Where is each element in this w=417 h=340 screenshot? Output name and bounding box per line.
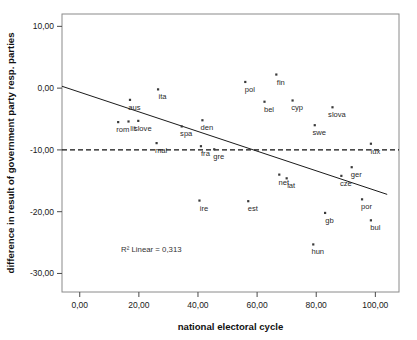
- scatter-plot-figure: 10,000,00-10,00-20,00-30,000,0020,0040,0…: [0, 0, 417, 340]
- data-point-label: gb: [325, 216, 333, 225]
- data-point-labels: ausitaromlitslovespadenmalfragrepolbelfi…: [116, 78, 381, 257]
- data-point-marker: [137, 120, 139, 122]
- data-point-marker: [351, 166, 353, 168]
- data-point-marker: [117, 121, 119, 123]
- data-point-label: lux: [371, 147, 381, 156]
- y-tick-label: -30,00: [30, 268, 54, 278]
- axis-ticks: 10,000,00-10,00-20,00-30,000,0020,0040,0…: [30, 21, 389, 310]
- data-point-marker: [340, 175, 342, 177]
- x-tick-label: 20,00: [128, 300, 150, 310]
- data-point-marker: [263, 101, 265, 103]
- data-point-marker: [324, 212, 326, 214]
- linear-regression-fit: [62, 86, 387, 194]
- data-point-label: slova: [328, 110, 347, 119]
- data-point-label: bul: [370, 223, 380, 232]
- regression-line: [62, 86, 387, 194]
- data-point-marker: [200, 145, 202, 147]
- data-point-label: cze: [340, 179, 352, 188]
- data-point-label: por: [361, 202, 372, 211]
- data-point-marker: [370, 219, 372, 221]
- y-tick-label: 10,00: [33, 21, 55, 31]
- x-axis-title: national electoral cycle: [178, 321, 284, 332]
- data-point-marker: [181, 125, 183, 127]
- data-point-marker: [213, 148, 215, 150]
- data-point-label: pol: [245, 85, 255, 94]
- data-point-label: lat: [287, 181, 296, 190]
- data-point-label: fra: [201, 149, 211, 158]
- data-point-marker: [201, 119, 203, 121]
- y-tick-label: -20,00: [30, 207, 54, 217]
- data-point-marker: [312, 243, 314, 245]
- data-point-label: hun: [311, 247, 324, 256]
- x-tick-label: 80,00: [306, 300, 328, 310]
- axis-titles: national electoral cycledifference in re…: [5, 33, 283, 332]
- data-point-label: cyp: [291, 103, 303, 112]
- data-point-marker: [314, 124, 316, 126]
- data-point-marker: [291, 99, 293, 101]
- y-axis-title: difference in result of government party…: [5, 33, 16, 274]
- data-point-label: swe: [312, 128, 326, 137]
- data-point-marker: [331, 106, 333, 108]
- y-tick-label: 0,00: [37, 83, 54, 93]
- data-point-label: spa: [180, 129, 193, 138]
- data-point-label: mal: [155, 146, 168, 155]
- data-point-marker: [155, 142, 157, 144]
- data-point-label: fin: [277, 78, 285, 87]
- data-point-label: ire: [200, 204, 208, 213]
- data-point-marker: [127, 120, 129, 122]
- data-point-label: ita: [159, 92, 168, 101]
- data-point-marker: [244, 81, 246, 83]
- data-point-label: slove: [134, 124, 152, 133]
- data-point-label: den: [201, 123, 214, 132]
- data-point-marker: [361, 198, 363, 200]
- plot-canvas: 10,000,00-10,00-20,00-30,000,0020,0040,0…: [0, 0, 417, 340]
- plot-frame: [62, 14, 399, 292]
- x-tick-label: 60,00: [246, 300, 268, 310]
- data-point-label: gre: [213, 152, 224, 161]
- data-point-marker: [275, 73, 277, 75]
- r-squared: R² Linear = 0,313: [121, 245, 181, 254]
- x-tick-label: 40,00: [187, 300, 209, 310]
- data-point-marker: [157, 88, 159, 90]
- data-point-marker: [198, 199, 200, 201]
- y-tick-label: -10,00: [30, 145, 54, 155]
- chart-annotations: R² Linear = 0,313: [121, 245, 181, 254]
- data-point-marker: [247, 200, 249, 202]
- data-point-label: ger: [351, 170, 362, 179]
- x-tick-label: 100,00: [362, 300, 388, 310]
- plot-area-border: [62, 14, 399, 292]
- data-point-marker: [278, 174, 280, 176]
- data-point-label: bel: [264, 105, 274, 114]
- data-point-label: rom: [116, 125, 129, 134]
- data-point-marker: [370, 143, 372, 145]
- x-tick-label: 0,00: [71, 300, 88, 310]
- data-point-label: aus: [128, 103, 140, 112]
- data-point-marker: [129, 99, 131, 101]
- data-point-label: est: [248, 204, 259, 213]
